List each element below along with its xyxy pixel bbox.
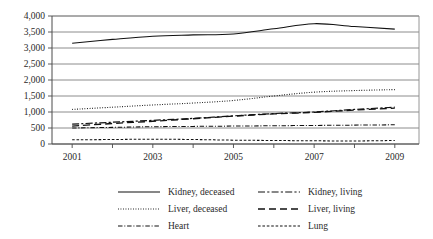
x-tick-label: 2003 — [143, 152, 162, 162]
x-tick-label: 2005 — [224, 152, 243, 162]
legend-label: Liver, living — [308, 204, 355, 214]
line-chart-figure: 05001,0001,5002,0002,5003,0003,5004,000 … — [0, 0, 433, 239]
legend-label: Kidney, deceased — [168, 187, 235, 197]
y-tick-label: 0 — [40, 139, 45, 149]
legend-label: Liver, deceased — [168, 204, 227, 214]
y-tick-label: 1,000 — [24, 107, 46, 117]
y-tick-label: 1,500 — [24, 91, 46, 101]
chart-canvas: 05001,0001,5002,0002,5003,0003,5004,000 … — [0, 0, 433, 239]
chart-background — [0, 0, 433, 239]
y-tick-label: 4,000 — [24, 11, 46, 21]
x-tick-label: 2007 — [305, 152, 324, 162]
x-tick-label: 2001 — [63, 152, 82, 162]
legend-label: Kidney, living — [308, 187, 363, 197]
y-tick-label: 2,000 — [24, 75, 46, 85]
x-tick-label: 2009 — [385, 152, 404, 162]
y-tick-label: 2,500 — [24, 59, 46, 69]
y-tick-label: 3,000 — [24, 43, 46, 53]
legend-label: Heart — [168, 221, 189, 231]
legend-label: Lung — [308, 221, 328, 231]
y-tick-label: 3,500 — [24, 27, 46, 37]
y-tick-label: 500 — [31, 123, 46, 133]
